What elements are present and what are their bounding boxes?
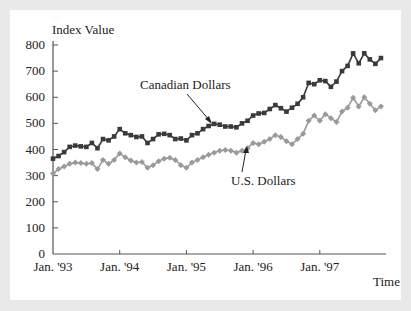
diamond-marker-icon <box>195 157 201 163</box>
square-marker-icon <box>67 145 72 150</box>
square-marker-icon <box>234 125 239 130</box>
square-marker-icon <box>323 79 328 84</box>
diamond-marker-icon <box>261 139 267 145</box>
y-tick-label: 200 <box>26 194 46 209</box>
square-marker-icon <box>379 56 384 61</box>
square-marker-icon <box>295 101 300 106</box>
y-tick-label: 700 <box>26 63 46 78</box>
line-chart: Index Value 0100200300400500600700800 Ja… <box>0 0 411 311</box>
x-tick-label: Jan. '95 <box>167 259 206 274</box>
square-marker-icon <box>95 146 100 151</box>
square-marker-icon <box>312 82 317 87</box>
square-marker-icon <box>101 137 106 142</box>
y-axis-label: Index Value <box>52 22 114 37</box>
square-marker-icon <box>123 131 128 136</box>
annotation-us-dollars: U.S. Dollars <box>231 173 296 188</box>
series-u-s-dollars <box>50 94 384 176</box>
y-tick-label: 600 <box>26 89 46 104</box>
square-marker-icon <box>345 64 350 69</box>
square-marker-icon <box>145 141 150 146</box>
y-tick-label: 800 <box>26 37 46 52</box>
y-tick-label: 100 <box>26 220 46 235</box>
square-marker-icon <box>267 107 272 112</box>
square-marker-icon <box>190 133 195 138</box>
x-axis: Jan. '93Jan. '94Jan. '95Jan. '96Jan. '97 <box>33 250 386 274</box>
annotation-canadian-dollars: Canadian Dollars <box>140 77 231 92</box>
x-tick-label: Jan. '97 <box>300 259 340 274</box>
y-tick-label: 500 <box>26 115 46 130</box>
square-marker-icon <box>262 111 267 116</box>
y-axis: 0100200300400500600700800 <box>26 37 59 261</box>
square-marker-icon <box>306 81 311 86</box>
square-marker-icon <box>179 136 184 141</box>
diamond-marker-icon <box>211 150 217 156</box>
square-marker-icon <box>117 127 122 132</box>
square-marker-icon <box>279 106 284 111</box>
square-marker-icon <box>56 154 61 159</box>
diamond-marker-icon <box>167 155 173 161</box>
square-marker-icon <box>351 51 356 56</box>
x-axis-label: Time <box>373 274 400 289</box>
square-marker-icon <box>362 51 367 56</box>
diamond-marker-icon <box>200 154 206 160</box>
series-canadian-dollars <box>51 51 384 161</box>
square-marker-icon <box>51 156 56 161</box>
diamond-marker-icon <box>217 148 223 154</box>
diamond-marker-icon <box>83 161 89 167</box>
diamond-marker-icon <box>67 161 73 167</box>
diamond-marker-icon <box>222 147 228 153</box>
square-marker-icon <box>106 138 111 143</box>
square-marker-icon <box>229 124 234 129</box>
square-marker-icon <box>162 132 167 137</box>
square-marker-icon <box>284 109 289 114</box>
square-marker-icon <box>334 79 339 84</box>
square-marker-icon <box>245 118 250 123</box>
square-marker-icon <box>373 62 378 67</box>
square-marker-icon <box>318 78 323 83</box>
square-marker-icon <box>134 135 139 140</box>
series-group <box>50 51 384 176</box>
diamond-marker-icon <box>256 141 262 147</box>
square-marker-icon <box>140 134 145 139</box>
square-marker-icon <box>112 134 117 139</box>
square-marker-icon <box>273 103 278 108</box>
square-marker-icon <box>90 141 95 146</box>
y-tick-label: 400 <box>26 142 46 157</box>
square-marker-icon <box>251 113 256 118</box>
x-tick-label: Jan. '96 <box>234 259 274 274</box>
arrow-us <box>242 150 246 172</box>
square-marker-icon <box>340 69 345 74</box>
square-marker-icon <box>356 61 361 66</box>
square-marker-icon <box>201 127 206 132</box>
square-marker-icon <box>240 121 245 126</box>
square-marker-icon <box>301 95 306 100</box>
diamond-marker-icon <box>78 160 84 166</box>
square-marker-icon <box>217 122 222 127</box>
square-marker-icon <box>195 131 200 136</box>
diamond-marker-icon <box>133 160 139 166</box>
square-marker-icon <box>368 57 373 62</box>
square-marker-icon <box>78 144 83 149</box>
square-marker-icon <box>173 137 178 142</box>
arrowhead-canadian-icon <box>205 116 212 124</box>
square-marker-icon <box>206 124 211 129</box>
x-tick-label: Jan. '94 <box>100 259 140 274</box>
square-marker-icon <box>167 133 172 138</box>
x-tick-label: Jan. '93 <box>33 259 72 274</box>
diamond-marker-icon <box>206 152 212 158</box>
y-tick-label: 300 <box>26 168 46 183</box>
square-marker-icon <box>84 145 89 150</box>
square-marker-icon <box>129 133 134 138</box>
diamond-marker-icon <box>228 148 234 154</box>
square-marker-icon <box>184 138 189 143</box>
square-marker-icon <box>62 150 67 155</box>
square-marker-icon <box>151 137 156 142</box>
square-marker-icon <box>290 105 295 110</box>
square-marker-icon <box>156 132 161 137</box>
square-marker-icon <box>329 85 334 90</box>
diamond-marker-icon <box>161 156 167 162</box>
arrow-canadian <box>187 94 210 121</box>
square-marker-icon <box>212 122 217 127</box>
square-marker-icon <box>73 143 78 148</box>
diamond-marker-icon <box>233 150 239 156</box>
